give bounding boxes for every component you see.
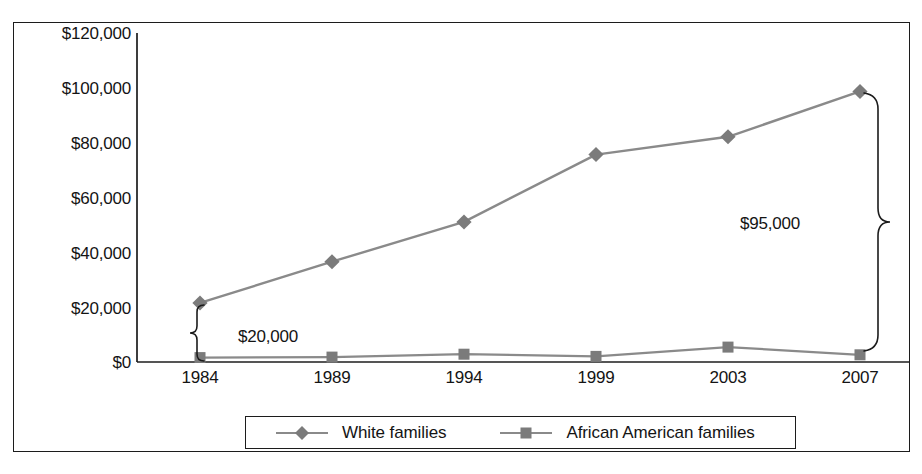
x-axis-tick-labels: 1984 1989 1994 1999 2003 2007 <box>0 368 922 394</box>
y-tick-label: $40,000 <box>71 245 131 262</box>
square-marker-icon <box>498 423 554 443</box>
x-tick-label: 2007 <box>841 368 878 388</box>
y-tick-label: $60,000 <box>71 190 131 207</box>
y-tick-label: $100,000 <box>62 80 131 97</box>
y-tick-label: $80,000 <box>71 135 131 152</box>
axis-lines <box>137 33 910 362</box>
brace-gap-2007 <box>864 93 890 351</box>
series-white-families <box>192 84 867 311</box>
x-tick-label: 1999 <box>577 368 614 388</box>
diamond-marker-icon <box>274 423 330 443</box>
x-tick-label: 1984 <box>181 368 218 388</box>
plot-area <box>136 33 910 363</box>
y-tick-label: $120,000 <box>62 25 131 42</box>
legend-label: African American families <box>566 424 754 442</box>
x-tick-label: 2003 <box>709 368 746 388</box>
x-tick-label: 1994 <box>445 368 482 388</box>
x-tick-label: 1989 <box>313 368 350 388</box>
annotation-gap-1984: $20,000 <box>238 328 298 346</box>
chart-figure: $120,000 $100,000 $80,000 $60,000 $40,00… <box>0 0 922 474</box>
legend-label: White families <box>342 424 446 442</box>
y-tick-label: $20,000 <box>71 300 131 317</box>
annotation-gap-2007: $95,000 <box>740 215 800 233</box>
y-axis-tick-labels: $120,000 $100,000 $80,000 $60,000 $40,00… <box>0 0 131 474</box>
legend-entry-white-families[interactable]: White families <box>274 417 446 448</box>
legend-entry-african-american-families[interactable]: African American families <box>498 417 754 448</box>
chart-legend: White families African American families <box>245 416 796 449</box>
